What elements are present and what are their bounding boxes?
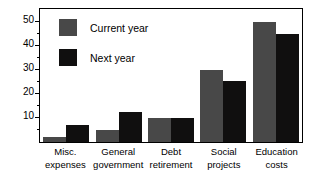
x-category-line: retirement	[145, 159, 198, 172]
bar-current-year	[200, 70, 223, 142]
bar-current-year	[253, 22, 276, 142]
y-tick-label: 10	[14, 111, 34, 121]
bar-next-year	[171, 118, 194, 142]
x-category-line: Debt	[145, 146, 198, 159]
bar-group	[197, 9, 249, 142]
x-category-label: Debt retirement	[145, 146, 198, 171]
bar-current-year	[96, 130, 119, 142]
plot-area: Current year Next year	[39, 8, 303, 143]
bar-group	[145, 9, 197, 142]
x-category-line: Education	[250, 146, 303, 159]
legend-swatch-icon	[59, 49, 77, 66]
x-category-label: General government	[92, 146, 145, 171]
x-category-label: Misc. expenses	[39, 146, 92, 171]
y-tick-label: 50	[14, 15, 34, 25]
x-category-line: costs	[250, 159, 303, 172]
legend-item-current-year: Current year	[59, 19, 148, 36]
x-category-line: government	[92, 159, 145, 172]
legend-label: Current year	[90, 22, 148, 34]
x-category-line: Social	[197, 146, 250, 159]
chart-legend: Current year Next year	[59, 19, 148, 79]
y-axis-labels: 50 40 30 20 10	[14, 0, 34, 184]
bar-group	[250, 9, 302, 142]
y-tick-label: 30	[14, 63, 34, 73]
x-category-line: Misc.	[39, 146, 92, 159]
bar-chart: 50 40 30 20 10	[0, 0, 318, 184]
y-tick-label: 40	[14, 39, 34, 49]
bar-next-year	[223, 81, 246, 142]
y-tick-label: 20	[14, 87, 34, 97]
bar-next-year	[276, 34, 299, 142]
x-category-line: projects	[197, 159, 250, 172]
legend-swatch-icon	[59, 19, 77, 36]
x-axis-labels: Misc. expenses General government Debt r…	[39, 146, 303, 171]
x-category-line: expenses	[39, 159, 92, 172]
bar-next-year	[66, 125, 89, 142]
legend-item-next-year: Next year	[59, 49, 148, 66]
x-category-label: Education costs	[250, 146, 303, 171]
bar-current-year	[148, 118, 171, 142]
x-category-line: General	[92, 146, 145, 159]
bar-current-year	[43, 137, 66, 142]
x-category-label: Social projects	[197, 146, 250, 171]
bar-next-year	[119, 112, 142, 142]
legend-label: Next year	[90, 52, 135, 64]
